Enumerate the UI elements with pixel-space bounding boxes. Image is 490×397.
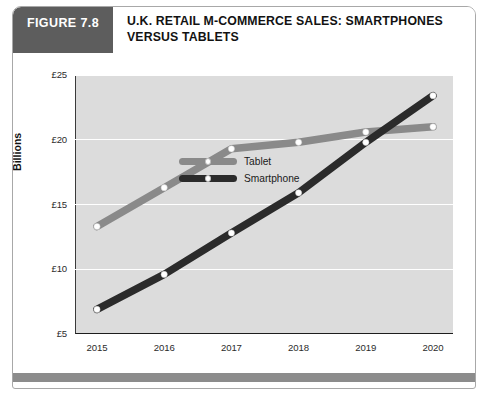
x-tick-label: 2016: [144, 342, 184, 353]
figure-title-container: U.K. RETAIL M-COMMERCE SALES: SMARTPHONE…: [113, 7, 475, 53]
page-title: U.K. RETAIL M-COMMERCE SALES: SMARTPHONE…: [127, 14, 465, 45]
data-point-marker: [363, 139, 369, 145]
data-point-marker: [161, 185, 167, 191]
legend-item-smartphone: Smartphone: [179, 170, 300, 187]
y-tick-label: £15: [33, 199, 67, 210]
x-tick-label: 2017: [211, 342, 251, 353]
x-tick-label: 2019: [346, 342, 386, 353]
x-tick-label: 2015: [77, 342, 117, 353]
figure-number-tag: FIGURE 7.8: [13, 7, 113, 53]
figure-header: FIGURE 7.8 U.K. RETAIL M-COMMERCE SALES:…: [13, 7, 475, 53]
plot-frame: £5£10£15£20£25 201520162017201820192020 …: [75, 75, 453, 334]
data-point-marker: [228, 146, 234, 152]
legend-swatch-smartphone: [179, 175, 237, 182]
legend-swatch-tablet: [179, 158, 237, 165]
data-point-marker: [363, 129, 369, 135]
data-point-marker: [228, 230, 234, 236]
figure-number-label: FIGURE 7.8: [27, 16, 99, 30]
data-point-marker: [296, 139, 302, 145]
y-tick-label: £25: [33, 69, 67, 80]
legend-marker-dot: [205, 158, 211, 164]
legend-marker-dot: [205, 175, 211, 181]
data-point-marker: [430, 124, 436, 130]
x-tick-label: 2020: [413, 342, 453, 353]
data-point-marker: [94, 306, 100, 312]
series-line-smartphone: [97, 96, 433, 310]
y-axis-title: Billions: [12, 133, 23, 171]
data-point-marker: [430, 93, 436, 99]
figure-root: FIGURE 7.8 U.K. RETAIL M-COMMERCE SALES:…: [0, 0, 490, 397]
data-point-marker: [161, 271, 167, 277]
y-tick-label: £5: [33, 328, 67, 339]
legend-label-smartphone: Smartphone: [244, 173, 300, 184]
data-point-marker: [296, 190, 302, 196]
chart-area: Billions £5£10£15£20£25 2015201620172018…: [13, 53, 475, 368]
y-tick-label: £10: [33, 263, 67, 274]
chart-series-layer: [75, 75, 453, 334]
footer-bar: [13, 373, 475, 382]
y-tick-label: £20: [33, 134, 67, 145]
figure-card: FIGURE 7.8 U.K. RETAIL M-COMMERCE SALES:…: [12, 6, 476, 389]
data-point-marker: [94, 223, 100, 229]
chart-legend: Tablet Smartphone: [179, 153, 300, 187]
legend-item-tablet: Tablet: [179, 153, 300, 170]
x-tick-label: 2018: [279, 342, 319, 353]
legend-label-tablet: Tablet: [244, 156, 271, 167]
